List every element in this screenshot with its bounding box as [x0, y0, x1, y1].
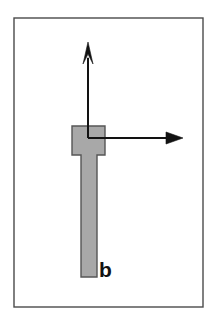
figure-container: b: [0, 0, 213, 320]
label-b: b: [99, 258, 112, 281]
figure-canvas: b: [0, 0, 213, 320]
